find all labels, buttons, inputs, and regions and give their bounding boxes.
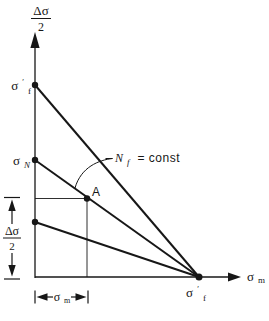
bottom-dimension-label-base: σ <box>54 290 61 304</box>
y-axis-arrowhead-icon <box>30 32 39 48</box>
bottom-dimension: σ m <box>35 287 88 305</box>
left-dimension-down-arrowhead-icon <box>8 265 15 277</box>
point-sigma-N <box>32 157 38 163</box>
bottom-dimension-label-sub: m <box>64 296 71 305</box>
diagram-canvas: Δσ 2 σ m σ ′ f <box>0 0 269 321</box>
label-nf-const-sub: f <box>127 157 131 167</box>
label-sigma-N-base: σ <box>13 153 20 168</box>
label-sigma-f-prime-top-prime: ′ <box>22 78 24 87</box>
life-lines <box>35 85 199 277</box>
point-lower-intercept <box>32 219 38 225</box>
label-sigma-f-prime-bottom: σ ′ f <box>186 278 206 303</box>
constant-life-diagram: Δσ 2 σ m σ ′ f <box>0 0 269 321</box>
bottom-dimension-right-arrowhead-icon <box>76 293 87 300</box>
x-axis-label: σ m <box>247 267 265 285</box>
left-dimension-denominator: 2 <box>9 240 15 252</box>
label-sigma-f-prime-bottom-prime: ′ <box>197 285 199 294</box>
point-A <box>84 195 90 201</box>
x-axis-label-sub: m <box>258 275 265 285</box>
y-axis-label: Δσ 2 <box>31 3 51 34</box>
left-dimension: Δσ 2 <box>3 198 21 280</box>
label-nf-const-var: N <box>114 151 124 165</box>
label-sigma-f-prime-top-base: σ <box>11 78 18 93</box>
x-axis-arrowhead-icon <box>228 273 241 282</box>
life-line-top <box>35 85 199 277</box>
bottom-dimension-label: σ m <box>54 287 71 305</box>
label-point-A: A <box>92 185 100 199</box>
bottom-dimension-left-arrowhead-icon <box>37 293 48 300</box>
label-sigma-N: σ N <box>13 151 31 170</box>
x-axis-label-base: σ <box>247 269 254 284</box>
label-sigma-f-prime-top: σ ′ f <box>11 71 31 96</box>
label-sigma-N-sub: N <box>23 160 31 170</box>
label-sigma-f-prime-top-sub: f <box>28 86 31 96</box>
left-dimension-numerator: Δσ <box>5 224 20 238</box>
y-axis-label-denominator: 2 <box>38 20 44 34</box>
label-nf-const-eq: = const <box>138 151 181 165</box>
leader-curve <box>75 159 113 189</box>
label-sigma-f-prime-bottom-sub: f <box>203 293 206 303</box>
point-sigma-f-prime-y <box>32 82 38 88</box>
y-axis-label-numerator: Δσ <box>33 3 48 18</box>
label-sigma-f-prime-bottom-base: σ <box>186 285 193 300</box>
label-nf-const: N f = const <box>114 148 180 168</box>
life-line-middle <box>35 160 199 277</box>
